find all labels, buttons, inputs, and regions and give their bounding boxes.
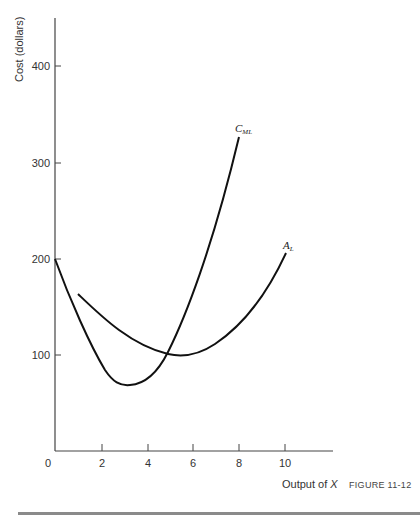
bottom-rule — [18, 512, 420, 515]
curve-label-cml: CML — [235, 122, 252, 136]
y-axis-title: Cost (dollars) — [13, 17, 25, 82]
x-tick-label: 4 — [145, 457, 151, 469]
curve-al — [78, 253, 286, 356]
x-tick-label: 8 — [236, 457, 242, 469]
x-tick-label: 2 — [99, 457, 105, 469]
x-axis-title-main: Output of — [282, 478, 330, 490]
y-ticks: 400 300 200 100 — [32, 60, 61, 361]
x-axis-title-var: X — [329, 478, 338, 490]
figure-label: FIGURE 11-12 — [349, 480, 411, 490]
y-tick-label: 100 — [32, 349, 50, 361]
chart: 400 300 200 100 0 2 4 6 8 10 Cost (dolla… — [0, 0, 420, 516]
curve-label-al: AL — [282, 239, 294, 253]
x-tick-label: 10 — [279, 457, 291, 469]
y-tick-label: 400 — [32, 60, 50, 72]
x-tick-label: 6 — [190, 457, 196, 469]
x-ticks: 0 2 4 6 8 10 — [45, 444, 291, 469]
x-axis-title: Output of X — [282, 478, 338, 490]
curve-cml — [55, 137, 239, 385]
x-tick-label: 0 — [45, 457, 51, 469]
y-tick-label: 300 — [32, 157, 50, 169]
y-tick-label: 200 — [32, 253, 50, 265]
